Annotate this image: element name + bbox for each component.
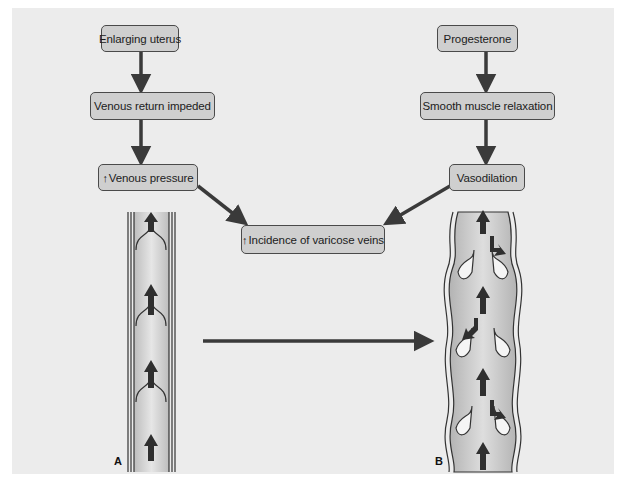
box-vasodilation: Vasodilation	[449, 164, 525, 191]
box-progesterone: Progesterone	[437, 25, 518, 52]
box-enlarging-uterus: Enlarging uterus	[101, 25, 179, 52]
panel-label-b: B	[435, 455, 443, 467]
box-label: Vasodilation	[457, 172, 518, 184]
box-label: Enlarging uterus	[99, 33, 181, 45]
left-chain-arrows	[141, 52, 240, 219]
box-venous-return-impeded: Venous return impeded	[90, 92, 215, 120]
box-smooth-muscle-relaxation: Smooth muscle relaxation	[420, 92, 555, 120]
vein-b-illustration	[444, 210, 522, 472]
panel-label-a: A	[114, 455, 122, 467]
box-label: Incidence of varicose veins	[249, 234, 384, 246]
box-label: Progesterone	[444, 33, 512, 45]
box-label: Smooth muscle relaxation	[423, 100, 553, 112]
box-venous-pressure: ↑ Venous pressure	[98, 164, 198, 191]
increase-arrow-icon: ↑	[242, 234, 247, 246]
vein-a-illustration	[128, 212, 175, 472]
box-label: Venous pressure	[109, 172, 194, 184]
right-chain-arrows	[392, 52, 486, 220]
increase-arrow-icon: ↑	[102, 172, 107, 184]
box-label: Venous return impeded	[94, 100, 211, 112]
box-incidence-varicose-veins: ↑ Incidence of varicose veins	[241, 225, 385, 254]
